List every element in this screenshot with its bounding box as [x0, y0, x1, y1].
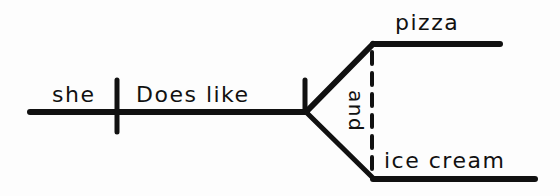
object-word-pizza: pizza	[395, 10, 459, 35]
sentence-diagram: she Does like pizza ice cream and	[0, 0, 560, 196]
subject-word: she	[52, 82, 95, 107]
conjunction-word: and	[344, 90, 368, 132]
object-word-ice-cream: ice cream	[384, 148, 505, 173]
predicate-words: Does like	[136, 82, 250, 107]
